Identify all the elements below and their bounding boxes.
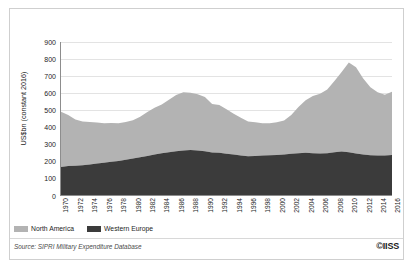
x-tick-label-2008: 2008 [337, 198, 344, 213]
legend-swatch-north-america [14, 226, 28, 232]
x-tick-label-1982: 1982 [149, 198, 156, 213]
legend-item-2: Western Europe [87, 225, 153, 232]
x-tick-label-1974: 1974 [91, 198, 98, 213]
chart-figure: US$bn (constant 2016) 010020030040050060… [0, 0, 413, 271]
x-tick-label-2012: 2012 [366, 198, 373, 213]
legend-label-1: North America [31, 225, 74, 232]
x-tick-label-1986: 1986 [178, 198, 185, 213]
legend-swatch-western-europe [87, 226, 101, 232]
area-north-america [61, 62, 392, 167]
y-axis-title: US$bn (constant 2016) [19, 39, 28, 179]
x-tick-label-1984: 1984 [163, 198, 170, 213]
x-tick-label-1988: 1988 [192, 198, 199, 213]
y-tick-label-500: 500 [30, 107, 56, 114]
x-tick-label-1970: 1970 [62, 198, 69, 213]
chart-legend: North AmericaWestern Europe [14, 225, 161, 232]
y-tick-label-800: 800 [30, 56, 56, 63]
x-tick-label-2006: 2006 [322, 198, 329, 213]
y-tick-label-700: 700 [30, 73, 56, 80]
x-tick-label-2000: 2000 [279, 198, 286, 213]
x-tick-label-2014: 2014 [380, 198, 387, 213]
x-tick-label-2004: 2004 [308, 198, 315, 213]
y-tick-label-900: 900 [30, 39, 56, 46]
x-tick-label-1996: 1996 [250, 198, 257, 213]
y-axis-tick-labels: 0100200300400500600700800900 [28, 42, 56, 196]
iiss-logo: ©IISS [376, 241, 399, 251]
footer-divider [10, 238, 403, 239]
x-tick-label-2016: 2016 [394, 198, 401, 213]
y-tick-label-300: 300 [30, 141, 56, 148]
x-tick-label-1972: 1972 [77, 198, 84, 213]
x-tick-label-1978: 1978 [120, 198, 127, 213]
y-tick-label-600: 600 [30, 90, 56, 97]
legend-label-2: Western Europe [104, 225, 153, 232]
stacked-area-series [61, 42, 392, 195]
x-tick-label-1976: 1976 [106, 198, 113, 213]
y-tick-label-100: 100 [30, 175, 56, 182]
legend-item-1: North America [14, 225, 74, 232]
x-tick-label-1992: 1992 [221, 198, 228, 213]
x-tick-label-2010: 2010 [351, 198, 358, 213]
x-tick-label-1994: 1994 [236, 198, 243, 213]
x-tick-label-2002: 2002 [293, 198, 300, 213]
source-note: Source: SIPRI Military Expenditure Datab… [14, 243, 142, 250]
x-tick-label-1980: 1980 [135, 198, 142, 213]
plot-area [60, 42, 392, 196]
y-tick-label-200: 200 [30, 158, 56, 165]
x-tick-label-1998: 1998 [264, 198, 271, 213]
y-tick-label-0: 0 [30, 193, 56, 200]
x-tick-label-1990: 1990 [207, 198, 214, 213]
y-tick-label-400: 400 [30, 124, 56, 131]
